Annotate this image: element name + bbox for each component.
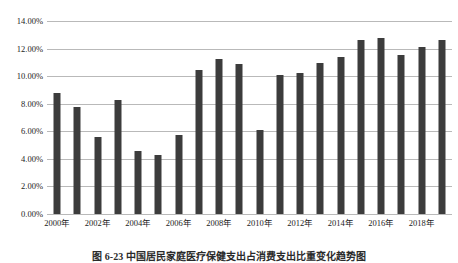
bar-slot <box>331 21 351 214</box>
bar <box>418 47 425 214</box>
bar <box>114 100 121 214</box>
bar <box>74 107 81 214</box>
bar-slot <box>148 21 168 214</box>
bar <box>195 70 202 214</box>
bar <box>378 38 385 214</box>
x-axis: 2000年2002年2004年2006年2008年2010年2012年2014年… <box>47 216 452 232</box>
y-axis-tick-label: 8.00% <box>21 99 43 109</box>
bar-slot <box>351 21 371 214</box>
bar <box>317 63 324 214</box>
x-axis-tick-label: 2014年 <box>328 216 354 228</box>
bar <box>94 137 101 214</box>
x-axis-tick-label: 2006年 <box>166 216 192 228</box>
y-axis-tick-label: 10.00% <box>17 71 43 81</box>
bar-slot <box>189 21 209 214</box>
bar-slot <box>250 21 270 214</box>
y-axis-tick-label: 0.00% <box>21 209 43 219</box>
x-axis-tick-label: 2002年 <box>85 216 111 228</box>
bar-slot <box>47 21 67 214</box>
bar-slot <box>128 21 148 214</box>
bar <box>276 75 283 214</box>
y-axis-tick-label: 14.00% <box>17 16 43 26</box>
bar-slot <box>270 21 290 214</box>
x-axis-tick-label: 2008年 <box>206 216 232 228</box>
bar-slot <box>432 21 452 214</box>
y-axis-tick-label: 12.00% <box>17 44 43 54</box>
x-axis-tick-label: 2004年 <box>125 216 151 228</box>
bar <box>236 64 243 214</box>
chart-figure: 0.00%2.00%4.00%6.00%8.00%10.00%12.00%14.… <box>0 0 458 263</box>
y-axis-tick-label: 6.00% <box>21 126 43 136</box>
bar <box>438 40 445 214</box>
y-axis-tick-label: 4.00% <box>21 154 43 164</box>
y-axis: 0.00%2.00%4.00%6.00%8.00%10.00%12.00%14.… <box>0 21 43 214</box>
bar <box>54 93 61 214</box>
gridline <box>47 214 452 215</box>
x-axis-tick-label: 2012年 <box>287 216 313 228</box>
x-axis-tick-label: 2018年 <box>409 216 435 228</box>
bar <box>135 151 142 214</box>
plot-area <box>47 21 452 214</box>
bar <box>297 73 304 214</box>
bar-slot <box>169 21 189 214</box>
bar <box>398 55 405 214</box>
bar-slot <box>108 21 128 214</box>
x-axis-tick-label: 2010年 <box>247 216 273 228</box>
bar-series <box>47 21 452 214</box>
bar-slot <box>310 21 330 214</box>
bar-slot <box>290 21 310 214</box>
bar-slot <box>209 21 229 214</box>
bar-slot <box>371 21 391 214</box>
bar-slot <box>67 21 87 214</box>
bar <box>256 130 263 214</box>
bar <box>357 40 364 214</box>
bar-slot <box>88 21 108 214</box>
x-axis-tick-label: 2000年 <box>44 216 70 228</box>
y-axis-tick-label: 2.00% <box>21 181 43 191</box>
bar <box>216 59 223 214</box>
bar-slot <box>391 21 411 214</box>
bar-slot <box>229 21 249 214</box>
bar-slot <box>412 21 432 214</box>
bar <box>155 155 162 214</box>
bar <box>175 135 182 214</box>
x-axis-tick-label: 2016年 <box>368 216 394 228</box>
bar <box>337 57 344 214</box>
figure-caption: 图 6-23 中国居民家庭医疗保健支出占消费支出比重变化趋势图 <box>0 250 458 263</box>
